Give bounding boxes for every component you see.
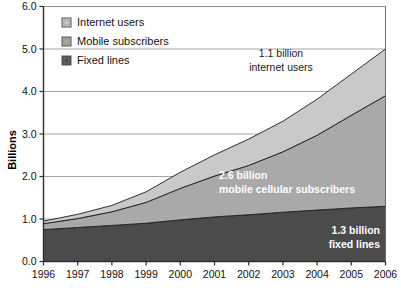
y-axis-title: Billions bbox=[6, 130, 18, 170]
x-tick-label: 1998 bbox=[100, 268, 124, 280]
stacked-area-chart: 0.01.02.03.04.05.06.0 199619971998199920… bbox=[0, 0, 401, 296]
y-tick-label: 6.0 bbox=[22, 0, 37, 12]
x-tick-label: 2002 bbox=[237, 268, 261, 280]
legend-swatch-inner bbox=[64, 20, 69, 25]
x-tick-label: 1999 bbox=[134, 268, 158, 280]
fixed-annotation-line1: 1.3 billion bbox=[332, 224, 380, 236]
y-tick-label: 2.0 bbox=[22, 170, 37, 182]
x-tick-label: 1997 bbox=[66, 268, 90, 280]
x-tick-label: 2000 bbox=[169, 268, 193, 280]
legend-swatch-inner bbox=[64, 39, 69, 44]
legend-label: Fixed lines bbox=[77, 54, 130, 66]
internet-annotation-line2: internet users bbox=[249, 61, 313, 73]
x-tick-label: 2004 bbox=[305, 268, 329, 280]
legend-label: Internet users bbox=[77, 16, 145, 28]
x-tick-label: 2001 bbox=[203, 268, 227, 280]
mobile-annotation-line2: mobile cellular subscribers bbox=[219, 183, 355, 195]
mobile-annotation-line1: 2.6 billion bbox=[219, 169, 267, 181]
x-tick-label: 2006 bbox=[374, 268, 398, 280]
legend-label: Mobile subscribers bbox=[77, 35, 169, 47]
y-tick-label: 5.0 bbox=[22, 43, 37, 55]
legend-item-mobile-subscribers[interactable]: Mobile subscribers bbox=[62, 35, 169, 47]
y-tick-label: 4.0 bbox=[22, 85, 37, 97]
x-tick-label: 2005 bbox=[340, 268, 364, 280]
y-tick-label: 3.0 bbox=[22, 128, 37, 140]
fixed-annotation-line2: fixed lines bbox=[329, 238, 381, 250]
x-tick-label: 1996 bbox=[32, 268, 56, 280]
chart-canvas: 0.01.02.03.04.05.06.0 199619971998199920… bbox=[0, 0, 401, 296]
x-tick-label: 2003 bbox=[271, 268, 295, 280]
y-tick-label: 1.0 bbox=[22, 213, 37, 225]
y-tick-label: 0.0 bbox=[22, 255, 37, 267]
internet-annotation-line1: 1.1 billion bbox=[259, 47, 304, 59]
legend-swatch-inner bbox=[64, 58, 69, 63]
